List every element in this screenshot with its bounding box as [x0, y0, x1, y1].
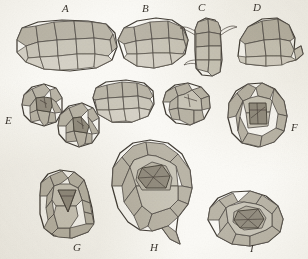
figure-label-b: B	[142, 2, 149, 14]
figure-label-c: C	[198, 1, 206, 13]
plate-illustration: .cell{ fill:#cbc7ba; stroke:#55504a; str…	[0, 0, 308, 259]
figure-label-a: A	[62, 2, 69, 14]
figure-label-g: G	[73, 241, 81, 253]
plate-canvas: .cell{ fill:#cbc7ba; stroke:#55504a; str…	[0, 0, 308, 259]
figure-label-i: I	[250, 242, 254, 254]
figure-label-f: F	[291, 121, 298, 133]
figure-label-d: D	[253, 1, 261, 13]
paper-grain	[0, 0, 308, 259]
figure-label-h: H	[150, 241, 158, 253]
figure-label-e: E	[5, 114, 12, 126]
